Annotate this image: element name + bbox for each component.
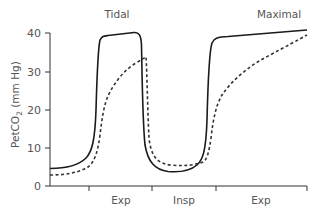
y-tick-label-10: 10	[27, 142, 41, 155]
solid-series-line	[50, 30, 307, 172]
chart-canvas: 40 30 20 10 0 PetCO2 (mm Hg) Exp Insp Ex…	[0, 0, 317, 216]
phase-label-insp: Insp	[173, 194, 195, 206]
phase-label-exp-1: Exp	[111, 194, 131, 206]
petco2-chart: 40 30 20 10 0 PetCO2 (mm Hg) Exp Insp Ex…	[0, 0, 317, 216]
y-tick-label-0: 0	[34, 180, 41, 193]
y-tick-label-30: 30	[27, 66, 41, 79]
phase-label-exp-2: Exp	[251, 194, 271, 206]
annotation-tidal: Tidal	[103, 8, 129, 20]
y-tick-label-20: 20	[27, 104, 41, 117]
y-tick-label-40: 40	[27, 27, 41, 40]
y-axis-label: PetCO2 (mm Hg)	[9, 61, 24, 148]
annotation-maximal: Maximal	[257, 8, 301, 20]
